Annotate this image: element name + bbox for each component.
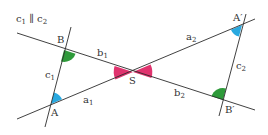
segment-label-a2: a2 xyxy=(186,32,196,44)
segment-label-b1: b1 xyxy=(97,48,108,60)
segment-label-c1: c1 xyxy=(45,70,55,82)
c2-sub: 2 xyxy=(242,65,246,73)
segment-label-a1: a1 xyxy=(83,95,93,107)
line-A-S-A-prime xyxy=(17,19,255,119)
point-label-S: S xyxy=(129,76,136,86)
point-label-A: A xyxy=(51,108,58,118)
caption-c2-sub: 2 xyxy=(43,18,47,26)
c1-sub: 1 xyxy=(51,74,55,82)
point-label-A-prime: A′ xyxy=(233,13,243,23)
a1-sub: 1 xyxy=(89,99,93,107)
point-label-B: B xyxy=(57,35,64,45)
segment-label-c2: c2 xyxy=(236,61,246,73)
point-label-B-prime: B′ xyxy=(225,105,235,115)
segment-label-b2: b2 xyxy=(174,88,185,100)
b1-sub: 1 xyxy=(103,52,107,60)
caption-parallel-symbol: ∥ xyxy=(26,13,37,24)
b2-sub: 2 xyxy=(180,92,184,100)
parallel-caption: c1 ∥ c2 xyxy=(16,14,47,26)
a2-sub: 2 xyxy=(192,36,196,44)
